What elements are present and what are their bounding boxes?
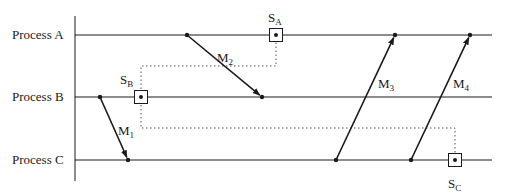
- event-dot: [468, 33, 472, 37]
- message-label-m2: M2: [217, 50, 233, 67]
- event-dot: [98, 95, 102, 99]
- message-label-m4: M4: [453, 76, 470, 93]
- process-label-c: Process C: [12, 152, 64, 167]
- message-arrow-m2: [187, 35, 260, 95]
- space-time-diagram: Process AProcess BProcess C M1M2M3M4 SAS…: [0, 0, 508, 196]
- process-label-b: Process B: [12, 89, 64, 104]
- event-dot: [260, 95, 264, 99]
- message-label-m3: M3: [378, 76, 395, 93]
- event-dot: [334, 158, 338, 162]
- snapshot-dot: [274, 33, 278, 37]
- snapshot-label-sb: SB: [120, 72, 133, 89]
- snapshot-cut-line: [141, 97, 455, 160]
- message-arrow-m4: [411, 38, 469, 160]
- snapshot-label-sc: SC: [448, 176, 461, 193]
- event-dot: [409, 158, 413, 162]
- event-dot: [126, 158, 130, 162]
- message-arrow-m3: [336, 38, 394, 160]
- snapshot-label-sa: SA: [268, 10, 282, 27]
- snapshots: SASBSC: [120, 10, 462, 193]
- event-dot: [185, 33, 189, 37]
- process-timelines: Process AProcess BProcess C: [12, 27, 492, 167]
- snapshot-cut-line: [141, 35, 276, 97]
- snapshot-dot: [453, 158, 457, 162]
- process-label-a: Process A: [12, 27, 64, 42]
- snapshot-dot: [139, 95, 143, 99]
- event-dot: [393, 33, 397, 37]
- message-label-m1: M1: [118, 123, 134, 140]
